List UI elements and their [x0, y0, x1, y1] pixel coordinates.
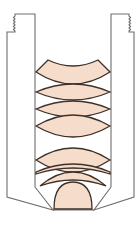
lens-8-plano-convex [54, 182, 92, 209]
lens-2-biconvex [36, 84, 110, 100]
lens-1-meniscus [36, 60, 110, 84]
lens-4-biconvex [36, 115, 110, 137]
lens-barrel-diagram [0, 0, 139, 225]
